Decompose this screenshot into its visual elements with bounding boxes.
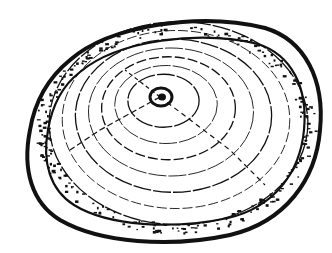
- stipple-dot: [307, 116, 309, 118]
- stipple-dot: [114, 45, 116, 47]
- stipple-dot: [57, 89, 61, 91]
- stipple-dot: [49, 93, 51, 95]
- stipple-dot: [304, 136, 306, 138]
- stipple-dot: [160, 29, 162, 31]
- stipple-dot: [258, 203, 261, 205]
- stipple-dot: [111, 47, 114, 49]
- stipple-dot: [102, 205, 104, 207]
- stipple-dot: [139, 37, 141, 39]
- stipple-dot: [137, 32, 139, 34]
- stipple-dot: [291, 170, 293, 172]
- stipple-dot: [299, 106, 302, 109]
- stipple-dot: [74, 65, 76, 66]
- stipple-dot: [216, 223, 218, 224]
- stipple-dot: [101, 40, 103, 42]
- stipple-dot: [258, 50, 261, 52]
- stipple-dot: [136, 229, 138, 230]
- stipple-dot: [309, 131, 312, 133]
- stipple-dot: [133, 221, 137, 223]
- stipple-dot: [39, 142, 42, 145]
- stipple-dot: [49, 149, 52, 151]
- stipple-dot: [307, 146, 310, 148]
- stipple-dot: [46, 121, 50, 123]
- stipple-dot: [249, 51, 251, 54]
- tree-cross-section-illustration: [0, 0, 332, 253]
- stipple-dot: [226, 218, 228, 220]
- stipple-dot: [44, 142, 46, 144]
- stipple-dot: [307, 156, 311, 157]
- stipple-dot: [266, 204, 269, 207]
- stipple-dot: [117, 36, 121, 38]
- stipple-dot: [296, 162, 299, 164]
- stipple-dot: [217, 227, 220, 229]
- stipple-dot: [63, 70, 66, 71]
- stipple-dot: [87, 55, 91, 56]
- stipple-dot: [46, 155, 50, 156]
- stipple-dot: [313, 113, 315, 114]
- stipple-dot: [305, 135, 308, 136]
- stipple-dot: [164, 29, 168, 32]
- stipple-dot: [160, 232, 162, 234]
- stipple-dot: [44, 160, 47, 161]
- stipple-dot: [106, 47, 109, 48]
- stipple-dot: [288, 172, 290, 173]
- stipple-dot: [283, 75, 287, 77]
- stipple-dot: [44, 135, 47, 138]
- stipple-dot: [38, 110, 40, 112]
- stipple-dot: [183, 232, 185, 234]
- stipple-dot: [280, 66, 282, 67]
- stipple-dot: [281, 60, 283, 63]
- stipple-dot: [152, 221, 155, 223]
- stipple-dot: [147, 29, 149, 31]
- stipple-dot: [114, 211, 116, 213]
- stipple-dot: [98, 212, 101, 214]
- stipple-dot: [261, 202, 264, 204]
- stipple-dot: [115, 43, 118, 45]
- stipple-dot: [188, 225, 190, 227]
- stipple-dot: [299, 159, 301, 162]
- stipple-dot: [251, 205, 253, 207]
- stipple-dot: [61, 83, 64, 86]
- stipple-dot: [230, 221, 232, 223]
- stipple-dot: [281, 183, 284, 184]
- stipple-dot: [240, 218, 243, 220]
- stipple-dot: [49, 95, 52, 97]
- stipple-dot: [290, 73, 292, 75]
- stipple-dot: [155, 230, 159, 232]
- stipple-dot: [54, 81, 58, 83]
- stipple-dot: [277, 64, 279, 65]
- stipple-dot: [50, 173, 52, 174]
- stipple-dot: [275, 65, 277, 67]
- stipple-dot: [71, 186, 74, 187]
- stipple-dot: [232, 213, 236, 216]
- stipple-dot: [177, 228, 179, 229]
- stipple-dot: [293, 79, 296, 81]
- stipple-dot: [37, 119, 41, 120]
- stipple-dot: [132, 31, 135, 33]
- stipple-dot: [60, 169, 62, 172]
- stipple-dot: [204, 224, 207, 226]
- stipple-dot: [262, 52, 264, 53]
- stipple-dot: [262, 199, 265, 202]
- stipple-dot: [315, 130, 318, 132]
- stipple-dot: [250, 211, 252, 212]
- stipple-dot: [307, 123, 311, 125]
- stipple-dot: [86, 57, 89, 59]
- stipple-dot: [308, 128, 311, 129]
- stipple-dot: [112, 216, 114, 218]
- stipple-dot: [300, 116, 302, 118]
- stipple-dot: [139, 221, 141, 223]
- stipple-dot: [305, 140, 307, 142]
- stipple-dot: [274, 192, 276, 194]
- stipple-dot: [195, 227, 198, 228]
- stipple-dot: [87, 51, 89, 53]
- stipple-dot: [292, 83, 296, 85]
- stipple-dot: [52, 170, 56, 173]
- stipple-dot: [53, 165, 56, 168]
- stipple-dot: [214, 30, 216, 32]
- stipple-dot: [56, 96, 58, 98]
- stipple-dot: [159, 33, 162, 35]
- stipple-dot: [57, 163, 61, 165]
- stipple-dot: [164, 225, 167, 226]
- stipple-dot: [304, 103, 306, 105]
